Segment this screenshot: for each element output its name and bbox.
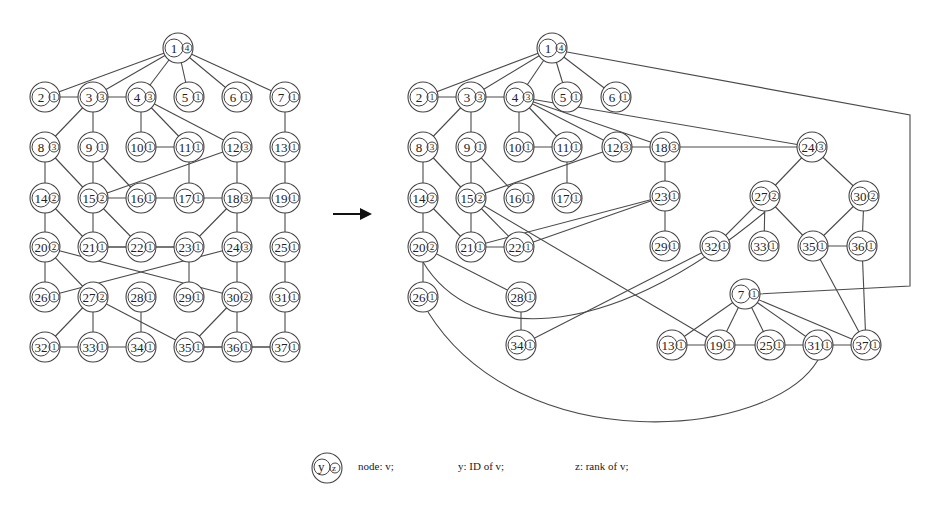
node-rank-label: 1 <box>292 342 297 352</box>
node-id-label: 15 <box>83 191 96 206</box>
left-node-6: 61 <box>222 82 252 112</box>
right-node-23: 231 <box>650 181 680 211</box>
left-node-16: 161 <box>126 183 156 213</box>
node-rank-label: 1 <box>292 92 297 102</box>
transformation-arrow <box>333 208 372 220</box>
right-node-13: 131 <box>657 330 687 360</box>
node-id-label: 23 <box>179 240 192 255</box>
right-node-8: 83 <box>408 132 438 162</box>
node-rank-label: 1 <box>100 142 105 152</box>
node-id-label: 9 <box>464 140 471 155</box>
node-id-label: 18 <box>227 191 240 206</box>
node-rank-label: 1 <box>148 193 153 203</box>
right-node-31: 311 <box>803 330 833 360</box>
node-rank-label: 1 <box>148 342 153 352</box>
node-id-label: 5 <box>560 90 567 105</box>
node-rank-label: 2 <box>52 242 57 252</box>
node-rank-label: 1 <box>292 193 297 203</box>
right-edge-4-18 <box>519 97 665 147</box>
node-id-label: 37 <box>856 338 870 353</box>
node-id-label: 33 <box>83 340 96 355</box>
right-node-12: 123 <box>602 132 632 162</box>
node-rank-label: 1 <box>292 142 297 152</box>
right-node-3: 33 <box>456 82 486 112</box>
node-id-label: 21 <box>461 240 474 255</box>
node-rank-label: 2 <box>871 191 876 201</box>
right-node-24: 243 <box>797 132 827 162</box>
node-rank-label: 3 <box>244 142 249 152</box>
right-edge-20-27 <box>423 212 765 319</box>
right-node-5: 51 <box>552 82 582 112</box>
node-rank-label: 1 <box>196 342 201 352</box>
node-id-label: 10 <box>509 140 522 155</box>
node-id-label: 11 <box>179 140 192 155</box>
node-rank-label: 1 <box>148 142 153 152</box>
node-id-label: 34 <box>511 338 525 353</box>
arrow-head-icon <box>360 208 372 220</box>
node-rank-label: 3 <box>624 142 629 152</box>
left-node-19: 191 <box>270 183 300 213</box>
node-rank-label: 1 <box>196 292 201 302</box>
node-id-label: 15 <box>461 191 474 206</box>
left-node-1: 14 <box>163 33 193 63</box>
left-node-23: 231 <box>174 232 204 262</box>
left-node-18: 183 <box>222 183 252 213</box>
node-id-label: 3 <box>86 90 93 105</box>
node-rank-label: 1 <box>771 241 776 251</box>
node-id-label: 13 <box>662 338 675 353</box>
legend-id-text: y: ID of v; <box>458 460 504 472</box>
right-node-26: 261 <box>408 282 438 312</box>
right-node-14: 142 <box>408 183 438 213</box>
right-node-33: 331 <box>749 231 779 261</box>
node-id-label: 1 <box>545 41 552 56</box>
node-rank-label: 3 <box>244 242 249 252</box>
legend: y z node: v; y: ID of v; z: rank of v; <box>312 453 628 483</box>
left-node-4: 43 <box>126 82 156 112</box>
node-id-label: 2 <box>416 90 423 105</box>
node-id-label: 35 <box>179 340 192 355</box>
right-edge-26-31 <box>428 312 818 422</box>
left-node-15: 152 <box>78 183 108 213</box>
right-node-35: 351 <box>798 231 828 261</box>
node-id-label: 32 <box>705 239 718 254</box>
node-id-label: 12 <box>607 140 620 155</box>
left-node-10: 101 <box>126 132 156 162</box>
node-rank-label: 1 <box>777 340 782 350</box>
node-id-label: 16 <box>131 191 145 206</box>
node-rank-label: 2 <box>100 292 105 302</box>
node-id-label: 19 <box>710 338 723 353</box>
node-id-label: 6 <box>230 90 237 105</box>
node-rank-label: 3 <box>672 142 677 152</box>
node-rank-label: 3 <box>100 92 105 102</box>
node-rank-label: 1 <box>873 340 878 350</box>
node-id-label: 17 <box>557 191 571 206</box>
left-node-36: 361 <box>222 332 252 362</box>
legend-symbol-id: y <box>318 459 325 474</box>
node-rank-label: 1 <box>478 142 483 152</box>
left-node-21: 211 <box>78 232 108 262</box>
node-rank-label: 1 <box>526 193 531 203</box>
left-node-8: 83 <box>30 132 60 162</box>
node-rank-label: 1 <box>526 242 531 252</box>
right-node-32: 321 <box>700 231 730 261</box>
left-node-25: 251 <box>270 232 300 262</box>
node-id-label: 19 <box>275 191 288 206</box>
node-rank-label: 4 <box>185 43 190 53</box>
left-node-32: 321 <box>30 332 60 362</box>
node-rank-label: 1 <box>148 242 153 252</box>
node-rank-label: 3 <box>478 92 483 102</box>
node-id-label: 1 <box>171 41 178 56</box>
node-rank-label: 1 <box>196 242 201 252</box>
right-node-1: 14 <box>537 33 567 63</box>
node-rank-label: 1 <box>727 340 732 350</box>
node-rank-label: 1 <box>244 342 249 352</box>
node-rank-label: 1 <box>196 92 201 102</box>
left-node-31: 311 <box>270 282 300 312</box>
left-node-34: 341 <box>126 332 156 362</box>
node-rank-label: 3 <box>819 142 824 152</box>
left-node-33: 331 <box>78 332 108 362</box>
node-rank-label: 4 <box>559 43 564 53</box>
node-rank-label: 1 <box>526 142 531 152</box>
left-node-29: 291 <box>174 282 204 312</box>
right-node-22: 221 <box>504 232 534 262</box>
